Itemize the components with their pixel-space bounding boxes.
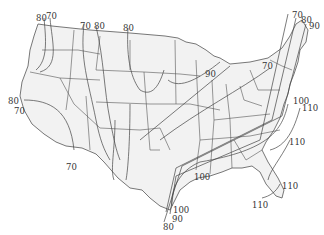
contour-label: 110 (282, 182, 298, 191)
contour-label: 70 (80, 22, 91, 31)
contour-label: 110 (302, 104, 318, 113)
contour-label: 110 (252, 201, 268, 210)
us-isoline-map (0, 0, 324, 235)
contour-label: 70 (46, 12, 57, 21)
contour-label: 80 (8, 97, 19, 106)
contour-label: 70 (14, 107, 25, 116)
contour-label: 80 (123, 24, 134, 33)
contour-label: 110 (289, 138, 305, 147)
contour-label: 100 (194, 173, 210, 182)
contour-label: 90 (205, 70, 216, 79)
contour-label: 80 (94, 22, 105, 31)
contour-label: 70 (66, 163, 77, 172)
contour-label: 90 (309, 22, 320, 31)
us-land (20, 20, 308, 210)
contour-label: 80 (163, 223, 174, 232)
contour-label: 70 (262, 62, 273, 71)
